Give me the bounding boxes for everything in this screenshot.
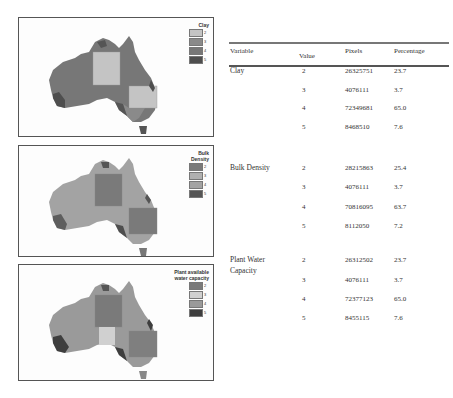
header-pixels: Pixels <box>345 47 362 55</box>
header-value: Value <box>299 52 315 60</box>
table-top-rule <box>229 42 449 44</box>
bulk-density-legend: Bulk Density 2 3 4 5 <box>189 150 209 198</box>
australia-clay-map <box>19 18 215 138</box>
legend-item: 2 <box>189 163 209 171</box>
legend-item: 3 <box>189 172 209 180</box>
clay-map-panel: Clay 2 3 4 5 <box>18 17 214 137</box>
variable-clay: Clay <box>230 66 244 76</box>
legend-item: 4 <box>189 181 209 189</box>
table-header-rule <box>229 65 449 67</box>
plant-water-legend: Plant available water capacity 2 3 4 5 <box>174 269 209 317</box>
legend-title-line2: water capacity <box>174 275 209 281</box>
plant-water-map-panel: Plant available water capacity 2 3 4 5 <box>18 264 214 381</box>
legend-title-line2: Density <box>189 156 209 162</box>
legend-item: 3 <box>189 38 209 46</box>
legend-item: 4 <box>174 300 209 308</box>
header-percentage: Percentage <box>394 47 425 55</box>
australia-bulk-density-map <box>19 146 215 258</box>
variable-bulk-density: Bulk Density <box>230 163 270 173</box>
legend-item: 3 <box>174 291 209 299</box>
legend-item: 4 <box>189 47 209 55</box>
header-variable: Variable <box>230 47 253 55</box>
legend-item: 5 <box>189 56 209 64</box>
legend-item: 5 <box>174 309 209 317</box>
legend-item: 2 <box>174 282 209 290</box>
legend-item: 5 <box>189 190 209 198</box>
variable-plant-water-line2: Capacity <box>230 266 257 276</box>
legend-title: Clay <box>189 22 209 28</box>
clay-legend: Clay 2 3 4 5 <box>189 22 209 64</box>
variable-plant-water-line1: Plant Water <box>230 255 265 265</box>
bulk-density-map-panel: Bulk Density 2 3 4 5 <box>18 145 214 257</box>
legend-item: 2 <box>189 29 209 37</box>
